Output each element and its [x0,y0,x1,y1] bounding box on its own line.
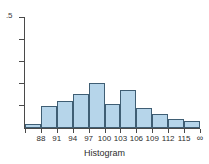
x-axis-label: 112 [162,134,175,143]
histogram-bar [41,106,57,128]
x-axis-label: 100 [98,134,111,143]
x-axis-line [24,128,200,129]
x-axis-label: 103 [114,134,127,143]
histogram-bar [184,121,200,128]
x-axis-tick [57,129,58,133]
y-axis-tick [19,39,24,40]
bars-group [25,17,200,128]
x-axis-label: 106 [130,134,143,143]
histogram-bar [168,119,184,128]
x-axis-label: 115 [178,134,191,143]
x-axis-tick [136,129,137,133]
histogram-bar [25,124,41,128]
x-axis-tick [89,129,90,133]
x-axis-tick [25,129,26,133]
histogram-bar [89,83,105,129]
histogram-bar [152,114,168,128]
histogram-bar [73,94,89,128]
y-axis-tick [19,17,24,18]
plot-area: .5 88919497100103106109112115∞ Histogram [0,0,209,164]
x-axis-label: 94 [68,134,77,143]
histogram-bar [105,104,121,128]
x-axis-tick [105,129,106,133]
x-axis-label: 97 [84,134,93,143]
x-axis-tick [120,129,121,133]
x-axis-tick [152,129,153,133]
x-axis-label: 91 [52,134,61,143]
y-axis-tick [19,105,24,106]
x-axis-label: 88 [36,134,45,143]
x-axis-tick [73,129,74,133]
x-axis-tick [184,129,185,133]
y-axis-max-label: .5 [6,11,12,20]
y-axis-tick [19,61,24,62]
x-axis-label: 109 [146,134,159,143]
x-axis-tick [168,129,169,133]
x-axis-label: ∞ [197,133,203,143]
histogram-figure: .5 88919497100103106109112115∞ Histogram [0,0,209,164]
y-axis-tick [19,83,24,84]
histogram-bar [136,108,152,128]
x-axis-title: Histogram [0,148,209,158]
histogram-bar [120,90,136,128]
histogram-bar [57,101,73,128]
x-axis-tick [41,129,42,133]
